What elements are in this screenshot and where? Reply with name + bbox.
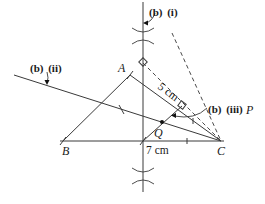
label-point-q: Q bbox=[154, 126, 163, 140]
geometry-diagram: (b) (i) (b) (ii) (b) (iii) P A B C Q 5 c… bbox=[0, 0, 265, 204]
label-b-i: (b) (i) bbox=[149, 6, 178, 19]
side-ab bbox=[63, 75, 130, 141]
label-point-c: C bbox=[217, 144, 226, 158]
label-point-a: A bbox=[117, 61, 126, 75]
label-point-b: B bbox=[62, 144, 70, 158]
label-point-p: P bbox=[245, 103, 254, 117]
label-bc-length: 7 cm bbox=[146, 144, 169, 156]
tick-marks bbox=[60, 71, 193, 145]
label-ac-length: 5 cm bbox=[156, 80, 181, 103]
point-q-dot bbox=[160, 120, 164, 124]
angle-bisector-line bbox=[14, 75, 221, 141]
dashed-line-through-c bbox=[172, 33, 221, 141]
label-b-iii: (b) (iii) bbox=[208, 103, 243, 116]
label-b-ii: (b) (ii) bbox=[30, 62, 62, 75]
